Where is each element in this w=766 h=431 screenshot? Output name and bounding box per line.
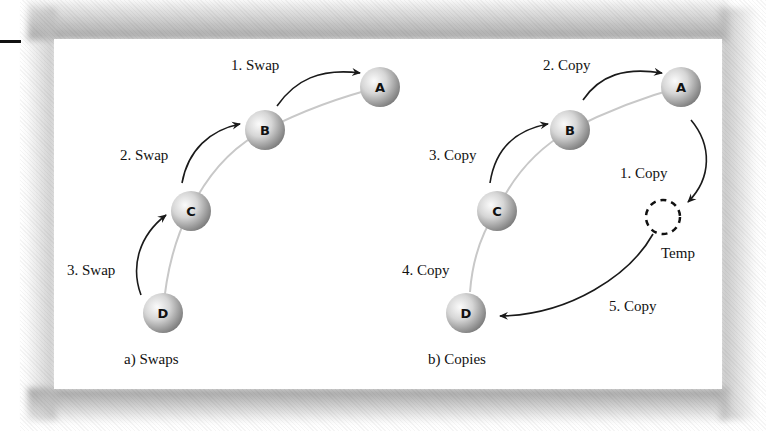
- svg-text:B: B: [565, 123, 575, 138]
- node-c: C: [171, 191, 211, 231]
- swap-arrow-3: [137, 215, 166, 295]
- svg-text:C: C: [186, 204, 196, 219]
- temp-slot: [646, 200, 680, 234]
- node-a: A: [360, 67, 400, 107]
- temp-label: Temp: [661, 245, 695, 262]
- copy-step-5-label: 5. Copy: [609, 298, 657, 315]
- copies-diagram: A B C D: [446, 67, 706, 333]
- swap-step-2-label: 2. Swap: [120, 147, 168, 164]
- svg-text:B: B: [260, 123, 270, 138]
- svg-text:D: D: [158, 306, 169, 321]
- copy-step-4-label: 4. Copy: [402, 262, 450, 279]
- copy-step-1-label: 1. Copy: [620, 165, 668, 182]
- copy-step-2-label: 2. Copy: [543, 57, 591, 74]
- swaps-diagram: A B C D: [137, 67, 400, 333]
- node-b: B: [550, 110, 590, 150]
- swap-step-1-label: 1. Swap: [231, 57, 279, 74]
- node-d: D: [143, 293, 183, 333]
- svg-text:D: D: [461, 306, 472, 321]
- copy-step-3-label: 3. Copy: [429, 147, 477, 164]
- swaps-caption: a) Swaps: [124, 351, 179, 368]
- node-b: B: [245, 110, 285, 150]
- copies-caption: b) Copies: [428, 351, 486, 368]
- swap-step-3-label: 3. Swap: [67, 262, 115, 279]
- node-a: A: [661, 67, 701, 107]
- node-c: C: [477, 191, 517, 231]
- svg-text:A: A: [375, 80, 385, 95]
- swap-arrow-1: [277, 72, 360, 106]
- copy-arrow-1: [688, 120, 706, 202]
- svg-text:A: A: [676, 80, 686, 95]
- node-d: D: [446, 293, 486, 333]
- diagram-canvas: A B C D A B: [0, 0, 766, 431]
- svg-text:C: C: [492, 204, 502, 219]
